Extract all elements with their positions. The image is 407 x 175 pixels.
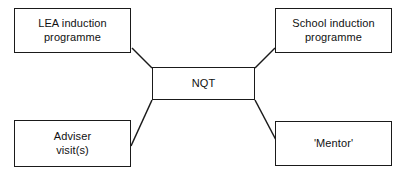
connector-nqt-to-adviser: [131, 100, 152, 146]
connector-nqt-to-lea: [132, 48, 152, 68]
node-label-adviser: Adviser visit(s): [51, 130, 94, 157]
node-label-nqt: NQT: [189, 77, 219, 91]
connector-nqt-to-school: [255, 48, 275, 68]
node-adviser-visits: Adviser visit(s): [14, 120, 131, 167]
node-label-school: School induction programme: [289, 17, 377, 44]
connector-nqt-to-mentor: [255, 100, 276, 140]
node-mentor: 'Mentor': [275, 121, 392, 166]
diagram-canvas: LEA induction programme School induction…: [0, 0, 407, 175]
node-nqt-center: NQT: [152, 67, 255, 100]
node-lea-induction-programme: LEA induction programme: [14, 8, 131, 53]
node-label-lea: LEA induction programme: [35, 17, 110, 44]
node-label-mentor: 'Mentor': [311, 137, 356, 151]
node-school-induction-programme: School induction programme: [275, 8, 392, 53]
